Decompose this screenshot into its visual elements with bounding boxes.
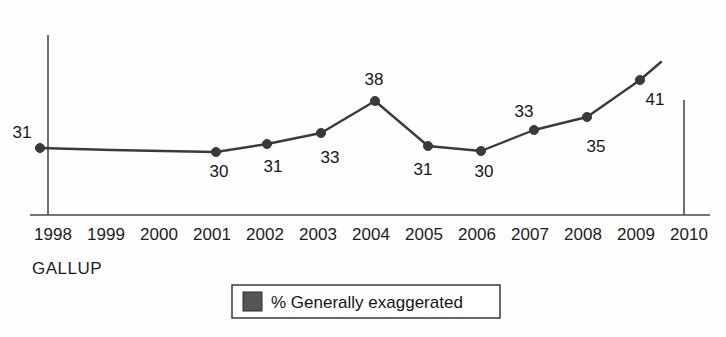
value-label-2002: 31 [264,157,283,176]
chart-screenshot: 31 30 31 33 38 31 30 33 35 41 1998 1999 … [0,0,726,337]
x-tick-2009: 2009 [617,225,655,244]
data-point-labels: 31 30 31 33 38 31 30 33 35 41 [13,70,665,181]
data-point-2005 [423,141,432,150]
x-tick-2010: 2010 [670,225,708,244]
x-tick-2003: 2003 [299,225,337,244]
legend-swatch-icon [243,292,262,311]
x-tick-2002: 2002 [246,225,284,244]
value-label-2007: 33 [515,102,534,121]
data-point-2007 [529,125,538,134]
series-generally-exaggerated [35,62,661,157]
value-label-2001: 30 [210,162,229,181]
x-tick-2008: 2008 [564,225,602,244]
value-label-1998: 31 [13,123,32,142]
series-line-path [40,62,661,152]
data-point-2006 [476,146,485,155]
line-chart: 31 30 31 33 38 31 30 33 35 41 1998 1999 … [0,0,726,337]
x-tick-2006: 2006 [458,225,496,244]
x-tick-1999: 1999 [87,225,125,244]
source-attribution: GALLUP [32,259,102,278]
data-point-2009 [635,75,644,84]
data-point-2001 [211,147,220,156]
x-tick-2005: 2005 [405,225,443,244]
chart-axes [30,35,710,215]
data-point-2002 [262,139,271,148]
x-axis-tick-labels: 1998 1999 2000 2001 2002 2003 2004 2005 … [34,225,708,244]
data-point-2008 [582,112,591,121]
value-label-2005: 31 [414,160,433,179]
x-tick-1998: 1998 [34,225,72,244]
x-tick-2004: 2004 [352,225,390,244]
chart-legend: % Generally exaggerated [232,285,500,318]
x-tick-2001: 2001 [193,225,231,244]
data-point-2004 [370,96,379,105]
data-point-2003 [316,128,325,137]
x-tick-2000: 2000 [140,225,178,244]
legend-entry-label: % Generally exaggerated [271,293,463,312]
value-label-2004: 38 [365,70,384,89]
value-label-2009: 41 [646,90,665,109]
value-label-2003: 33 [321,148,340,167]
data-point-1998 [35,143,44,152]
value-label-2008: 35 [587,137,606,156]
x-tick-2007: 2007 [511,225,549,244]
value-label-2006: 30 [475,162,494,181]
